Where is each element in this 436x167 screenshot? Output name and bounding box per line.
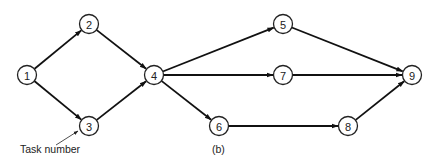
node-7: 7 bbox=[274, 66, 293, 85]
edge-4-to-6 bbox=[161, 81, 211, 120]
edge-4-to-5 bbox=[163, 28, 274, 72]
node-label: 6 bbox=[216, 121, 222, 133]
node-4: 4 bbox=[145, 66, 164, 85]
node-label: 9 bbox=[409, 70, 415, 82]
node-label: 5 bbox=[280, 19, 286, 31]
diagram-canvas: 123456789 bbox=[0, 0, 436, 167]
node-label: 4 bbox=[151, 70, 157, 82]
node-3: 3 bbox=[80, 117, 99, 136]
node-label: 8 bbox=[345, 121, 351, 133]
node-8: 8 bbox=[339, 117, 358, 136]
edges-layer bbox=[34, 27, 404, 126]
network-diagram: 123456789 Task number (b) bbox=[0, 0, 436, 167]
node-label: 7 bbox=[280, 70, 286, 82]
edge-2-to-4 bbox=[96, 30, 146, 69]
edge-3-to-4 bbox=[96, 81, 146, 120]
node-label: 1 bbox=[24, 70, 30, 82]
node-2: 2 bbox=[80, 15, 99, 34]
edge-8-to-9 bbox=[355, 81, 404, 120]
node-label: 2 bbox=[86, 19, 92, 31]
figure-caption: (b) bbox=[212, 143, 225, 155]
node-5: 5 bbox=[274, 15, 293, 34]
task-number-annotation: Task number bbox=[20, 143, 80, 155]
node-9: 9 bbox=[403, 66, 422, 85]
node-1: 1 bbox=[18, 66, 37, 85]
node-label: 3 bbox=[86, 121, 92, 133]
node-6: 6 bbox=[210, 117, 229, 136]
edge-5-to-9 bbox=[292, 27, 403, 71]
edge-1-to-2 bbox=[34, 30, 81, 69]
edge-1-to-3 bbox=[34, 81, 81, 120]
